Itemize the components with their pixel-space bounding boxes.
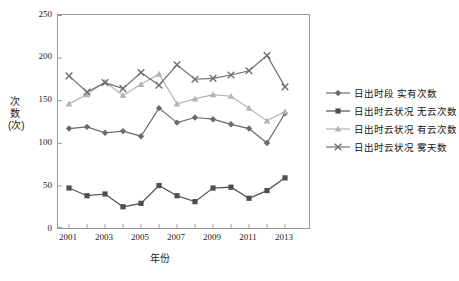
data-point-triangle [66, 101, 73, 107]
legend-marker-square-icon [325, 105, 351, 117]
x-axis-ticks [69, 224, 285, 228]
legend-label: 日出时段 实有次数 [354, 86, 437, 100]
series-2 [66, 71, 289, 124]
data-point-square [192, 199, 197, 204]
x-tick-label-2009: 2009 [198, 232, 226, 242]
data-point-triangle [156, 71, 163, 77]
data-point-square [120, 204, 125, 209]
data-point-cross [282, 84, 289, 91]
plot-svg [58, 15, 309, 228]
legend-item-0[interactable]: 日出时段 实有次数 [325, 84, 455, 102]
y-axis-ticks [58, 16, 62, 228]
legend-marker-diamond-icon [325, 87, 351, 99]
legend-label: 日出时云状况 雾天数 [354, 140, 447, 154]
data-point-cross [120, 85, 127, 92]
legend-item-3[interactable]: 日出时云状况 雾天数 [325, 138, 455, 156]
data-point-diamond [84, 124, 90, 130]
data-point-square [335, 108, 340, 113]
plot-area [57, 14, 310, 229]
data-point-triangle [264, 118, 271, 124]
data-point-cross [138, 69, 145, 76]
data-point-square [228, 185, 233, 190]
x-tick-label-2013: 2013 [270, 232, 298, 242]
data-point-diamond [102, 130, 108, 136]
data-point-square [174, 193, 179, 198]
legend-label: 日出时云状况 无云次数 [354, 104, 457, 118]
x-axis-title: 年份 [150, 250, 170, 265]
data-point-square [264, 188, 269, 193]
data-point-triangle [246, 105, 253, 111]
data-point-square [282, 175, 287, 180]
data-point-diamond [66, 125, 72, 131]
data-point-triangle [138, 81, 145, 87]
x-tick-label-2001: 2001 [54, 232, 82, 242]
data-point-square [156, 183, 161, 188]
series-3 [66, 52, 289, 95]
x-tick-label-2005: 2005 [126, 232, 154, 242]
data-point-square [138, 201, 143, 206]
series-1 [66, 175, 287, 209]
data-point-triangle [282, 108, 289, 114]
data-point-cross [264, 52, 271, 59]
data-point-square [210, 185, 215, 190]
data-point-cross [66, 73, 73, 80]
data-point-square [84, 193, 89, 198]
data-point-cross [156, 82, 163, 89]
data-point-diamond [138, 133, 144, 139]
x-tick-label-2007: 2007 [162, 232, 190, 242]
y-tick-label-200: 200 [22, 51, 52, 61]
legend-item-1[interactable]: 日出时云状况 无云次数 [325, 102, 455, 120]
data-point-diamond [335, 90, 341, 96]
x-tick-label-2011: 2011 [234, 232, 262, 242]
legend-label: 日出时云状况 有云次数 [354, 122, 457, 136]
y-tick-label-0: 0 [22, 223, 52, 233]
legend-item-2[interactable]: 日出时云状况 有云次数 [325, 120, 455, 138]
data-point-square [246, 196, 251, 201]
y-tick-label-100: 100 [22, 137, 52, 147]
series-0 [66, 105, 288, 146]
series-layer [66, 52, 289, 209]
data-point-diamond [120, 128, 126, 134]
data-point-diamond [210, 116, 216, 122]
y-tick-label-50: 50 [22, 180, 52, 190]
data-point-square [102, 191, 107, 196]
data-point-diamond [192, 114, 198, 120]
y-axis-title: 次数(次) [8, 96, 22, 132]
legend-marker-triangle-icon [325, 123, 351, 135]
data-point-diamond [228, 121, 234, 127]
chart-legend: 日出时段 实有次数日出时云状况 无云次数日出时云状况 有云次数日出时云状况 雾天… [325, 84, 455, 156]
x-tick-label-2003: 2003 [90, 232, 118, 242]
y-tick-label-250: 250 [22, 9, 52, 19]
y-tick-label-150: 150 [22, 94, 52, 104]
chart-root: 次数(次) 250 200 150 100 50 0 [0, 0, 459, 281]
data-point-square [66, 185, 71, 190]
data-point-cross [174, 62, 181, 69]
legend-marker-cross-icon [325, 141, 351, 153]
